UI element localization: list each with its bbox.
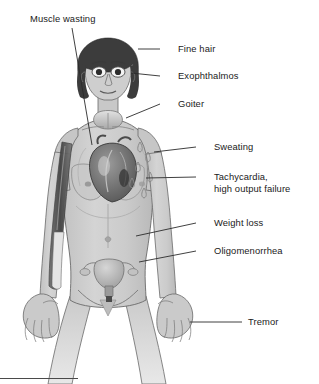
label-fine-hair: Fine hair xyxy=(178,43,215,55)
label-sweating: Sweating xyxy=(214,141,253,153)
nipple-right xyxy=(139,182,145,187)
label-tachycardia-line2: high output failure xyxy=(214,183,319,195)
label-oligomenorrhea: Oligomenorrhea xyxy=(214,245,283,257)
pupil-left xyxy=(96,69,102,75)
body-group xyxy=(23,38,193,384)
nipple-left xyxy=(85,181,91,186)
bone-shaft xyxy=(52,232,64,289)
hand-left xyxy=(23,294,59,342)
label-weight-loss: Weight loss xyxy=(214,217,263,229)
label-exophthalmos: Exophthalmos xyxy=(178,70,239,82)
label-tachycardia: Tachycardia, high output failure xyxy=(214,171,319,194)
ovary-left xyxy=(80,269,90,276)
hand-right xyxy=(157,294,193,342)
cervix xyxy=(105,286,113,298)
label-goiter: Goiter xyxy=(178,98,204,110)
leader-goiter xyxy=(126,104,160,118)
navel xyxy=(105,237,111,242)
ovary-right xyxy=(128,269,138,276)
label-tremor: Tremor xyxy=(248,316,278,328)
label-muscle-wasting: Muscle wasting xyxy=(30,13,96,25)
vagina xyxy=(106,296,112,302)
pupil-right xyxy=(115,69,121,75)
label-tachycardia-line1: Tachycardia, xyxy=(214,171,319,183)
pubic-triangle xyxy=(100,300,116,316)
